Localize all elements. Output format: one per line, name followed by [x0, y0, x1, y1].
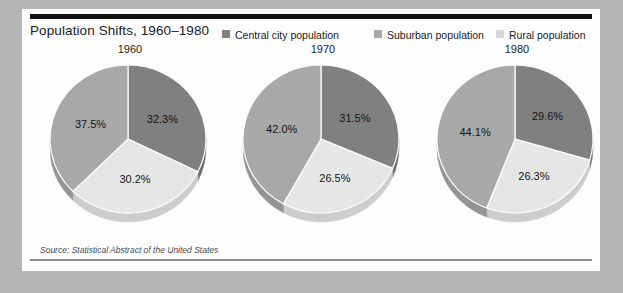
legend-label-rural: Rural population — [509, 29, 585, 41]
pie-year-label-1970: 1970 — [228, 43, 418, 55]
chart-legend: Central city population Suburban populat… — [222, 25, 594, 41]
pie-value-label-rural: 26.3% — [518, 170, 549, 182]
pie-panel-1980: 1980 29.6%26.3%44.1% — [422, 43, 612, 243]
legend-label-suburban: Suburban population — [387, 29, 484, 41]
title-rule — [30, 14, 592, 19]
page-title: Population Shifts, 1960–1980 — [30, 23, 209, 38]
pie-value-label-central-city: 31.5% — [339, 112, 370, 124]
pie-value-label-rural: 26.5% — [319, 172, 350, 184]
pie-svg-1960 — [42, 59, 218, 235]
legend-swatch-suburban — [374, 30, 382, 38]
pie-chart-1980: 29.6%26.3%44.1% — [429, 59, 605, 235]
legend-item-central-city: Central city population — [222, 25, 339, 41]
pie-panels: 1960 32.3%30.2%37.5% 1970 31.5%26.5%42.0… — [22, 43, 600, 243]
legend-swatch-rural — [496, 30, 504, 38]
pie-year-label-1980: 1980 — [422, 43, 612, 55]
pie-value-label-central-city: 32.3% — [147, 113, 178, 125]
pie-chart-1970: 31.5%26.5%42.0% — [235, 59, 411, 235]
pie-year-label-1960: 1960 — [35, 43, 225, 55]
legend-item-suburban: Suburban population — [374, 25, 484, 41]
bottom-rule — [30, 259, 592, 261]
pie-svg-1980 — [429, 59, 605, 235]
chart-header: Population Shifts, 1960–1980 Central cit… — [30, 23, 594, 43]
pie-value-label-central-city: 29.6% — [532, 110, 563, 122]
pie-value-label-suburban: 44.1% — [459, 126, 490, 138]
pie-panel-1970: 1970 31.5%26.5%42.0% — [228, 43, 418, 243]
legend-item-rural: Rural population — [496, 25, 585, 41]
chart-card: Population Shifts, 1960–1980 Central cit… — [22, 9, 600, 271]
pie-value-label-rural: 30.2% — [119, 173, 150, 185]
legend-label-central-city: Central city population — [235, 29, 339, 41]
pie-value-label-suburban: 42.0% — [266, 123, 297, 135]
pie-chart-1960: 32.3%30.2%37.5% — [42, 59, 218, 235]
pie-value-label-suburban: 37.5% — [75, 118, 106, 130]
source-note: Source: Statistical Abstract of the Unit… — [40, 245, 218, 255]
pie-svg-1970 — [235, 59, 411, 235]
pie-panel-1960: 1960 32.3%30.2%37.5% — [35, 43, 225, 243]
legend-swatch-central-city — [222, 30, 230, 38]
